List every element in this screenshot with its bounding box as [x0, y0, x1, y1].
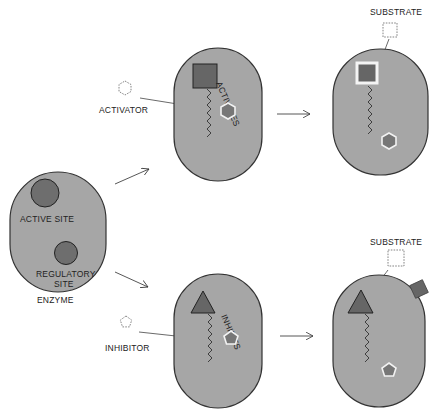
- enzyme-resting: ACTIVE SITE REGULATORY SITE ENZYME: [10, 172, 106, 305]
- enzyme-label: ENZYME: [37, 295, 74, 305]
- enzyme-body: [333, 275, 425, 407]
- substrate-square-dashed-icon: [388, 250, 404, 266]
- bound-activator-hexagon-icon: [221, 103, 235, 119]
- allosteric-regulation-diagram: ACTIVE SITE REGULATORY SITE ENZYME ACTIV…: [0, 0, 435, 412]
- active-site-with-substrate-icon: [357, 63, 377, 83]
- arrow-to-inhibition: [115, 272, 148, 287]
- inhibited-enzyme: SUBSTRATE: [333, 237, 428, 407]
- substrate-label-bottom: SUBSTRATE: [370, 237, 422, 247]
- active-site-label: ACTIVE SITE: [20, 214, 74, 224]
- bound-activator-hexagon-icon: [382, 133, 396, 149]
- activator-label: ACTIVATOR: [99, 105, 148, 115]
- activator-hexagon-dashed-icon: [119, 81, 131, 95]
- regulatory-site-icon: [55, 242, 78, 265]
- active-site-icon: [31, 179, 59, 207]
- activated-enzyme: SUBSTRATE: [333, 7, 428, 175]
- substrate-label-top: SUBSTRATE: [370, 7, 422, 17]
- active-site-square-icon: [193, 64, 217, 88]
- substrate-square-dashed-icon: [383, 23, 397, 37]
- inhibitor-label: INHIBITOR: [105, 343, 150, 353]
- regulatory-site-label-line1: REGULATORY: [36, 269, 96, 279]
- activation-binding-step: ACTIVATOR ACTIVATES: [99, 48, 262, 181]
- enzyme-body: [174, 274, 262, 408]
- inhibitor-pentagon-dashed-icon: [120, 316, 131, 327]
- inhibition-binding-step: INHIBITOR INHIBITS: [105, 274, 262, 408]
- enzyme-body: [333, 49, 428, 175]
- enzyme-body: [174, 48, 262, 181]
- regulatory-site-label-line2: SITE: [54, 279, 74, 289]
- arrow-to-activation: [115, 169, 149, 184]
